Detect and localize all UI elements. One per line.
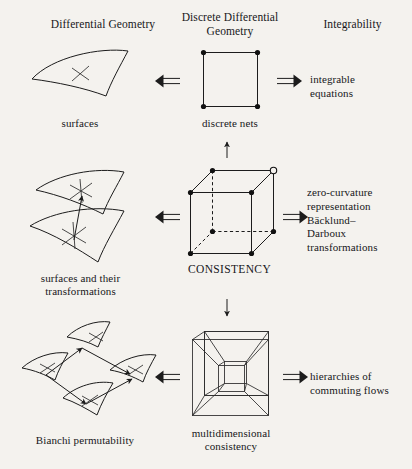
row3-right-implication-arrow bbox=[283, 371, 308, 384]
diagram-canvas: Differential Geometry Discrete Different… bbox=[0, 0, 412, 469]
caption-multidimensional-consistency: multidimensional consistency bbox=[172, 427, 290, 453]
text-hierarchies-of-commuting-flows: hierarchies of commuting flows bbox=[310, 370, 412, 398]
caption-consistency: CONSISTENCY bbox=[172, 263, 287, 277]
bianchi-permutability-figure bbox=[22, 322, 156, 415]
row2-left-implication-arrow bbox=[155, 211, 180, 224]
text-zero-curvature-backlund-darboux: zero-curvature representation Bäcklund– … bbox=[307, 186, 411, 255]
consistency-cube bbox=[188, 167, 277, 256]
caption-surfaces-and-transformations: surfaces and their transformations bbox=[8, 272, 153, 298]
discrete-net-square bbox=[201, 50, 260, 109]
surface-patch-single bbox=[32, 50, 128, 96]
caption-surfaces: surfaces bbox=[20, 117, 140, 130]
tesseract-figure bbox=[193, 332, 269, 416]
text-integrable-equations: integrable equations bbox=[310, 73, 410, 101]
row1-left-implication-arrow bbox=[155, 75, 180, 88]
caption-discrete-nets: discrete nets bbox=[175, 117, 285, 130]
open-vertex-marker bbox=[270, 167, 276, 173]
row3-left-implication-arrow bbox=[155, 371, 180, 384]
row1-right-implication-arrow bbox=[277, 75, 302, 88]
row2-right-implication-arrow bbox=[283, 211, 308, 224]
surface-patch-pair bbox=[30, 170, 124, 262]
caption-bianchi-permutability: Bianchi permutability bbox=[10, 434, 160, 447]
